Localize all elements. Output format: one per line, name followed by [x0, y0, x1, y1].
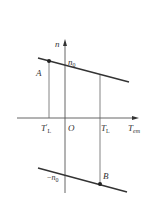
forward-characteristic-line: [38, 58, 129, 82]
n-axis-label: n: [55, 39, 60, 49]
tem-axis-label: Tem: [128, 123, 141, 134]
point-a-label: A: [35, 68, 42, 78]
tl-label: TL: [101, 123, 110, 134]
point-b-label: B: [103, 171, 109, 181]
origin-label: O: [68, 123, 75, 133]
n-axis-arrow-icon: [63, 39, 67, 46]
neg-n0-label: −n0: [47, 173, 59, 183]
tl-prime-label: T′L: [41, 122, 52, 134]
n0-label: n0: [68, 57, 76, 68]
diagram-canvas: n n0 A T′L O TL Tem −n0 B: [0, 0, 154, 208]
t-axis-arrow-icon: [132, 116, 139, 120]
point-b-marker: [98, 182, 102, 186]
point-a-marker: [47, 59, 51, 63]
